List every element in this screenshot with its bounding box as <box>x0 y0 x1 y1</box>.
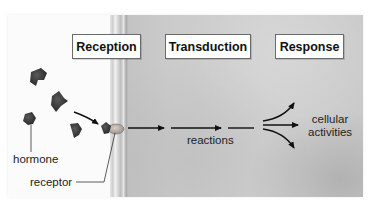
receptor-label: receptor <box>30 176 72 189</box>
hormone-molecule-icon <box>23 112 36 125</box>
signal-pathway-diagram: Reception Transduction Response hormone … <box>0 0 371 203</box>
receptor-icon <box>101 122 124 134</box>
stage-label-reception: Reception <box>76 40 136 54</box>
diagram-graphics <box>0 0 371 203</box>
reactions-label: reactions <box>187 134 234 147</box>
hormone-molecule-icon <box>70 123 82 138</box>
hormone-molecule-icon <box>30 68 47 86</box>
hormone-label: hormone <box>13 153 58 166</box>
cellular-activities-label: cellular activities <box>308 113 352 139</box>
cellular-activities-line-2: activities <box>308 126 352 139</box>
response-arrow-down <box>263 129 294 148</box>
stage-label-response: Response <box>280 40 340 54</box>
hormone-molecule-icon <box>51 91 68 112</box>
receptor-leader-line <box>76 133 115 182</box>
response-arrow-up <box>263 103 294 121</box>
stage-label-transduction: Transduction <box>169 40 247 54</box>
cellular-activities-line-1: cellular <box>308 113 352 126</box>
binding-arrow <box>74 112 98 124</box>
stage-box-response: Response <box>275 34 344 59</box>
stage-box-transduction: Transduction <box>165 34 251 59</box>
stage-box-reception: Reception <box>72 34 141 59</box>
